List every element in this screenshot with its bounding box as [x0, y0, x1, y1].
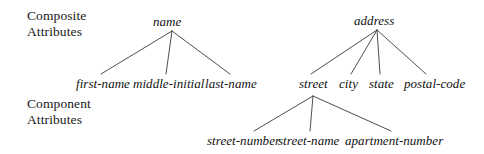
component-attributes-label: ComponentAttributes: [27, 96, 91, 128]
node-street-number: street-number: [207, 134, 280, 148]
node-city: city: [339, 77, 358, 91]
edge-name-middle-initial: [166, 31, 172, 74]
node-street: street: [299, 77, 328, 91]
node-middle-initial: middle-initial: [133, 77, 204, 91]
node-last-name: last-name: [205, 77, 257, 91]
composite-attributes-label: CompositeAttributes: [27, 8, 86, 40]
diagram-canvas: CompositeAttributes ComponentAttributes …: [0, 0, 484, 154]
node-name: name: [153, 15, 181, 29]
edge-name-last-name: [172, 31, 230, 74]
edge-address-postal-code: [377, 30, 426, 74]
edge-address-street: [311, 30, 377, 74]
node-street-name: street-name: [278, 134, 339, 148]
edge-street-apartment-number: [313, 96, 391, 131]
node-address: address: [354, 14, 394, 28]
composite-attributes-line1: Composite: [27, 8, 86, 23]
edge-address-state: [377, 30, 380, 74]
composite-attributes-line2: Attributes: [27, 24, 82, 39]
edge-street-street-number: [254, 96, 313, 131]
edge-name-first-name: [101, 31, 172, 74]
node-state: state: [369, 77, 394, 91]
component-attributes-line2: Attributes: [27, 112, 82, 127]
node-apartment-number: apartment-number: [345, 134, 443, 148]
edge-street-street-name: [310, 96, 313, 131]
component-attributes-line1: Component: [27, 96, 91, 111]
node-postal-code: postal-code: [404, 77, 465, 91]
node-first-name: first-name: [76, 77, 130, 91]
edge-address-city: [351, 30, 377, 74]
